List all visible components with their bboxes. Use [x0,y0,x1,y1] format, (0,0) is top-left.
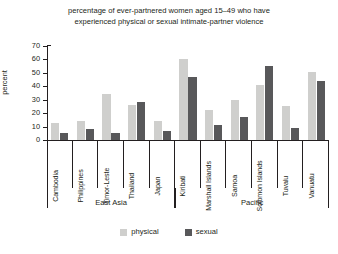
y-tick-label: 0 [18,136,40,143]
x-label-cell: Timor-Leste [98,141,124,188]
y-tick-label: 50 [18,69,40,76]
legend-item-sexual[interactable]: sexual [185,228,218,236]
chart-title-line-1: percentage of ever-partnered women aged … [0,5,338,16]
bar-physical-solomon-islands [256,85,264,140]
x-label-cell: Marshall Islands [201,141,227,188]
x-label-cell: Japan [150,141,176,188]
bar-sexual-marshall-islands [214,125,222,140]
legend-item-physical[interactable]: physical [120,228,158,236]
chart-title-line-2: experienced physical or sexual intimate-… [0,16,338,27]
x-label-cell: Thailand [124,141,150,188]
y-tick-label: 20 [18,109,40,116]
x-label-cell: Solomon Islands [252,141,278,188]
y-axis-label: percent [0,70,9,95]
bar-sexual-kiribati [188,77,196,140]
bar-physical-vanuatu [308,72,316,140]
x-axis-group-labels: East AsiaPacific [47,188,329,208]
bars-layer [47,46,329,140]
bar-sexual-solomon-islands [265,66,273,140]
bar-sexual-vanuatu [317,81,325,140]
x-axis-category-labels: CambodiaPhilippinesTimor-LesteThailandJa… [47,141,329,188]
bar-sexual-cambodia [60,133,68,140]
bar-sexual-thailand [137,102,145,140]
legend-label: sexual [196,228,218,236]
legend-swatch-sexual [185,229,192,236]
x-label-cell: Tuvalu [278,141,304,188]
bar-physical-japan [154,121,162,140]
y-tick-label: 10 [18,123,40,130]
group-cell: East Asia [47,188,175,208]
x-label-cell: Samoa [226,141,252,188]
bar-sexual-timor-leste [111,133,119,140]
x-label-cell: Vanuatu [303,141,329,188]
x-label-cell: Cambodia [47,141,73,188]
bar-physical-cambodia [51,123,59,140]
bar-physical-philippines [77,121,85,140]
bar-sexual-tuvalu [291,128,299,140]
bar-physical-samoa [231,100,239,140]
chart-title: percentage of ever-partnered women aged … [0,5,338,27]
group-label: East Asia [95,198,127,207]
bar-sexual-japan [163,131,171,140]
y-tick-label: 70 [18,42,40,49]
bar-physical-thailand [128,105,136,140]
legend-label: physical [131,228,158,236]
x-label-cell: Philippines [73,141,99,188]
bar-sexual-samoa [240,117,248,140]
y-tick-label: 60 [18,55,40,62]
chart-legend: physicalsexual [0,228,338,236]
group-label: Pacific [241,198,263,207]
y-tick-label: 40 [18,82,40,89]
y-tick-label: 30 [18,96,40,103]
x-label-cell: Kiribati [175,141,201,188]
bar-sexual-philippines [86,129,94,140]
bar-physical-tuvalu [282,106,290,140]
legend-swatch-physical [120,229,127,236]
bar-physical-marshall-islands [205,110,213,140]
chart-container: percentage of ever-partnered women aged … [0,0,338,254]
group-cell: Pacific [175,188,329,208]
bar-physical-kiribati [179,59,187,140]
bar-physical-timor-leste [102,94,110,140]
